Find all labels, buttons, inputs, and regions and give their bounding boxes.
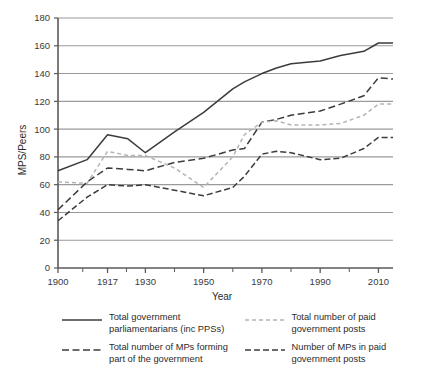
legend-item-label: Total governmentparliamentarians (inc PP… xyxy=(109,312,224,335)
y-tick-label: 120 xyxy=(34,96,50,107)
x-tick-label: 1930 xyxy=(135,276,156,287)
y-tick-label: 20 xyxy=(39,235,50,246)
y-tick-label: 0 xyxy=(45,262,50,273)
legend-label-line2: government posts xyxy=(292,354,366,364)
series-line xyxy=(58,137,393,220)
x-tick-label: 1950 xyxy=(193,276,214,287)
y-tick-label: 60 xyxy=(39,179,50,190)
legend-label-line1: Total government xyxy=(109,312,180,322)
legend-item[interactable]: Number of MPs in paidgovernment posts xyxy=(245,342,420,365)
x-tick-label: 1917 xyxy=(97,276,118,287)
x-axis-ticks: 1900191719301950197019902010 xyxy=(47,268,389,287)
chart-container: MPS/Peers Year 020406080100120140160180 … xyxy=(0,0,425,380)
y-tick-label: 40 xyxy=(39,207,50,218)
line-chart-svg: MPS/Peers Year 020406080100120140160180 … xyxy=(0,0,425,310)
y-tick-label: 80 xyxy=(39,151,50,162)
x-tick-label: 1970 xyxy=(251,276,272,287)
legend-item-label: Total number of paidgovernment posts xyxy=(292,312,376,335)
legend-line-swatch xyxy=(245,314,285,326)
legend-line-swatch xyxy=(62,344,102,356)
legend-item-label: Total number of MPs formingpart of the g… xyxy=(109,342,228,365)
y-tick-label: 160 xyxy=(34,40,50,51)
legend-item[interactable]: Total governmentparliamentarians (inc PP… xyxy=(62,312,237,335)
data-series xyxy=(58,43,393,221)
legend-item[interactable]: Total number of paidgovernment posts xyxy=(245,312,420,335)
legend-label-line1: Number of MPs in paid xyxy=(292,342,387,352)
y-axis-title: MPS/Peers xyxy=(17,125,28,176)
legend-label-line1: Total number of paid xyxy=(292,312,376,322)
y-tick-label: 180 xyxy=(34,12,50,23)
series-line xyxy=(58,104,393,187)
legend-label-line2: part of the government xyxy=(109,354,203,364)
x-tick-label: 1990 xyxy=(310,276,331,287)
y-tick-label: 140 xyxy=(34,68,50,79)
plot-area: MPS/Peers Year 020406080100120140160180 … xyxy=(0,0,425,310)
x-tick-label: 2010 xyxy=(368,276,389,287)
legend-item[interactable]: Total number of MPs formingpart of the g… xyxy=(62,342,237,365)
legend-label-line2: government posts xyxy=(292,324,366,334)
x-tick-label: 1900 xyxy=(47,276,68,287)
y-axis-ticks: 020406080100120140160180 xyxy=(34,12,58,273)
gridlines xyxy=(58,18,393,240)
legend-line-swatch xyxy=(245,344,285,356)
legend-label-line1: Total number of MPs forming xyxy=(109,342,228,352)
legend-label-line2: parliamentarians (inc PPSs) xyxy=(109,324,224,334)
x-axis-title: Year xyxy=(212,291,233,302)
legend-item-label: Number of MPs in paidgovernment posts xyxy=(292,342,387,365)
legend-line-swatch xyxy=(62,314,102,326)
y-tick-label: 100 xyxy=(34,124,50,135)
chart-legend: Total governmentparliamentarians (inc PP… xyxy=(0,308,425,380)
